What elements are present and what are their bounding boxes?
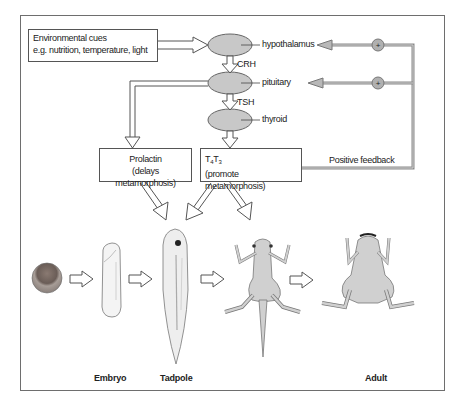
froglet-to-adult-arrow — [290, 272, 313, 288]
thyroid-to-t4t3-arrow — [222, 131, 238, 148]
crh-arrow — [222, 56, 238, 73]
svg-text:+: + — [376, 41, 381, 50]
froglet-illustration — [225, 239, 300, 357]
adult-frog-illustration — [322, 234, 414, 307]
adult-label: Adult — [365, 373, 387, 383]
tsh-label: TSH — [237, 97, 254, 107]
embryo-label: Embryo — [94, 373, 126, 383]
environmental-cues-examples: e.g. nutrition, temperature, light — [33, 44, 153, 56]
tadpole-illustration — [163, 229, 188, 364]
feedback-arrowhead-pituitary — [308, 78, 323, 88]
prolactin-effect: (delays metamorphosis) — [102, 165, 189, 189]
svg-text:+: + — [376, 79, 381, 88]
thyroid-label: thyroid — [262, 114, 287, 124]
thyroid-hormone-box: T4T3 (promote metamorphosis) — [200, 148, 302, 182]
egg-illustration — [32, 263, 62, 293]
pituitary-label: pituitary — [262, 77, 291, 87]
prolactin-title: Prolactin — [102, 153, 189, 165]
environmental-cues-title: Environmental cues — [33, 32, 153, 44]
env-to-hypothalamus-arrow — [158, 37, 208, 53]
tadpole-label: Tadpole — [160, 373, 192, 383]
environmental-cues-box: Environmental cues e.g. nutrition, tempe… — [28, 29, 158, 62]
prolactin-box: Prolactin (delays metamorphosis) — [99, 148, 192, 182]
t4-t3-title: T4T3 — [205, 153, 297, 168]
feedback-arrowhead-hypothalamus — [317, 40, 332, 50]
crh-label: CRH — [237, 59, 256, 69]
embryo-to-tadpole-arrow — [129, 271, 152, 287]
egg-to-embryo-arrow — [70, 271, 93, 287]
positive-feedback-route: + + — [302, 39, 413, 168]
embryo-illustration — [102, 243, 121, 317]
pituitary-to-prolactin-arrow — [125, 81, 208, 148]
t4-t3-effect: (promote metamorphosis) — [205, 168, 297, 192]
tadpole-to-froglet-arrow — [201, 271, 224, 287]
hypothalamus-label: hypothalamus — [262, 39, 314, 49]
positive-feedback-label: Positive feedback — [329, 155, 394, 165]
tsh-arrow — [222, 94, 238, 110]
